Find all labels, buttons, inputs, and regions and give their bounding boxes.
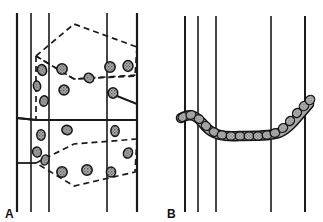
panel-a-hexagon-middle-solid xyxy=(17,92,137,120)
granule xyxy=(59,85,69,95)
chain-bead xyxy=(253,132,263,140)
panel-a-vertical-lines xyxy=(17,13,137,212)
chain-bead xyxy=(226,132,236,140)
panel-b-label: B xyxy=(167,208,176,220)
panel-a-label: A xyxy=(5,208,14,220)
granule xyxy=(37,130,45,140)
left-tick-upper xyxy=(17,118,36,120)
panel-b-canvas xyxy=(161,0,323,222)
granule xyxy=(111,126,119,137)
panel-a: A xyxy=(0,0,161,222)
figure-root: A xyxy=(0,0,323,222)
panel-a-hexagon-middle-dashed xyxy=(36,56,137,120)
panel-a-hexagon-top xyxy=(36,24,137,79)
panel-a-left-ticks xyxy=(17,118,36,163)
granule xyxy=(108,88,118,98)
chain-bead xyxy=(235,132,245,140)
bottom-hexagon-upper-edges xyxy=(36,139,137,163)
granule xyxy=(39,95,50,107)
panel-b: B xyxy=(161,0,323,222)
panel-a-hexagon-bottom xyxy=(36,139,137,186)
granule xyxy=(61,125,73,136)
granule xyxy=(106,167,115,177)
granule xyxy=(122,146,134,159)
granule xyxy=(57,64,67,74)
granule xyxy=(33,80,42,91)
panel-a-canvas xyxy=(0,0,161,222)
granule xyxy=(123,61,133,72)
granule xyxy=(105,62,115,72)
granule xyxy=(36,63,48,76)
top-hexagon-upper-edges xyxy=(36,24,137,56)
granule xyxy=(82,71,95,84)
granule xyxy=(82,165,92,175)
bottom-hexagon-lower-edges xyxy=(36,139,137,186)
chain-bead xyxy=(244,132,254,140)
granule xyxy=(31,146,42,158)
panel-b-vertical-lines xyxy=(185,16,305,212)
granule xyxy=(57,167,67,177)
